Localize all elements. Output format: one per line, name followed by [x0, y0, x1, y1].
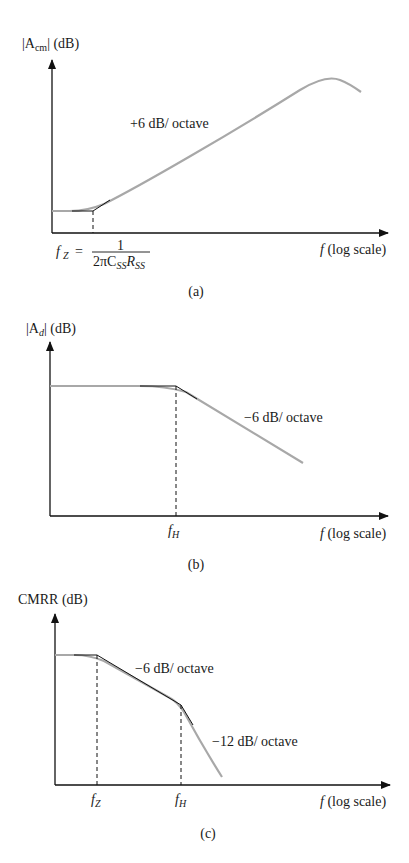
slope-label-a: +6 dB/ octave — [130, 116, 209, 131]
x-axis-label-b: f (log scale) — [320, 526, 386, 542]
caption-a: (a) — [188, 284, 204, 300]
acm-curve — [52, 78, 361, 211]
slope-label-c1: −6 dB/ octave — [135, 661, 214, 676]
caption-c: (c) — [200, 826, 216, 842]
y-axis-label-b: |Ad| (dB) — [26, 321, 76, 338]
panel-a: |Acm| (dB) +6 dB/ octave f (log scale) f… — [22, 36, 388, 300]
svg-text:1: 1 — [117, 238, 124, 253]
svg-text:Z: Z — [63, 250, 69, 261]
fh-label-b: fH — [168, 523, 180, 540]
panel-c: CMRR (dB) −6 dB/ octave −12 dB/ octave f… — [18, 592, 390, 842]
fz-label-c: fZ — [91, 792, 101, 809]
svg-text:f: f — [56, 244, 62, 259]
panel-b: |Ad| (dB) −6 dB/ octave f (log scale) fH… — [26, 321, 388, 573]
x-axis-label-c: f (log scale) — [320, 794, 386, 810]
y-axis-label-c: CMRR (dB) — [18, 592, 88, 608]
svg-text:=: = — [75, 244, 83, 259]
slope-label-c2: −12 dB/ octave — [212, 734, 298, 749]
fh-label-c: fH — [175, 792, 187, 809]
caption-b: (b) — [188, 557, 205, 573]
fz-formula: f Z = 1 2πCSSRSS — [56, 238, 150, 271]
bode-diagram: |Acm| (dB) +6 dB/ octave f (log scale) f… — [0, 0, 409, 863]
svg-text:2πCSSRSS: 2πCSSRSS — [93, 254, 145, 271]
x-axis-label-a: f (log scale) — [320, 242, 386, 258]
y-axis-label-a: |Acm| (dB) — [22, 36, 79, 53]
slope-label-b: −6 dB/ octave — [244, 410, 323, 425]
